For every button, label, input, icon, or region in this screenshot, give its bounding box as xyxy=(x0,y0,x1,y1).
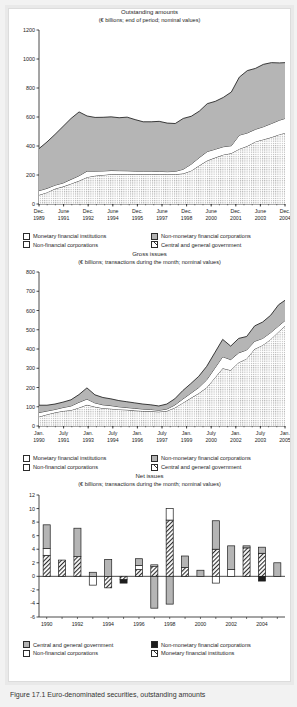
svg-text:Dec.: Dec. xyxy=(132,208,143,214)
svg-text:July: July xyxy=(59,430,69,436)
figure-caption: Figure 17.1 Euro-denominated securities,… xyxy=(10,690,287,704)
svg-text:200: 200 xyxy=(26,172,35,178)
legend-item-nfc: Non-financial corporations xyxy=(23,241,151,250)
legend-swatch-hatched-icon xyxy=(151,241,158,248)
legend-swatch-gray-icon xyxy=(151,233,158,240)
svg-text:June: June xyxy=(107,208,118,214)
svg-text:2000: 2000 xyxy=(205,215,217,221)
chart3-plot: -6-4-20246810121990199219941996199820002… xyxy=(9,489,290,639)
legend-swatch-white-icon xyxy=(23,650,30,657)
svg-text:-2: -2 xyxy=(30,586,35,592)
svg-text:1998: 1998 xyxy=(164,621,176,627)
legend-item-mfi: Monetary financial institutions xyxy=(23,232,151,241)
svg-text:600: 600 xyxy=(26,308,35,314)
svg-text:100: 100 xyxy=(26,404,35,410)
svg-text:1995: 1995 xyxy=(132,215,144,221)
svg-text:2003: 2003 xyxy=(255,215,267,221)
svg-text:0: 0 xyxy=(32,201,35,207)
svg-text:1000: 1000 xyxy=(23,56,35,62)
legend-label-cgg: Central and general government xyxy=(161,241,241,250)
chart1-plot: 020040060080010001200Dec.1989June1991Dec… xyxy=(9,24,290,230)
legend2-item-nmfc: Non-monetary financial corporations xyxy=(151,454,279,463)
svg-text:1991: 1991 xyxy=(58,437,70,443)
legend-swatch-gray-icon xyxy=(151,455,158,462)
svg-text:1994: 1994 xyxy=(107,215,119,221)
svg-text:1994: 1994 xyxy=(107,437,119,443)
svg-text:1996: 1996 xyxy=(133,621,145,627)
legend-swatch-dotted-icon xyxy=(23,455,30,462)
svg-text:July: July xyxy=(256,430,266,436)
svg-text:2000: 2000 xyxy=(205,437,217,443)
svg-text:Dec.: Dec. xyxy=(181,208,192,214)
svg-text:2003: 2003 xyxy=(255,437,267,443)
svg-text:Dec.: Dec. xyxy=(230,208,241,214)
chart1-subtitle: (€ billions; end of period; nominal valu… xyxy=(9,17,290,25)
legend3-item-cgg: Central and general government xyxy=(23,641,151,650)
legend-swatch-hatched-icon xyxy=(151,464,158,471)
svg-text:0: 0 xyxy=(32,573,35,579)
legend3-item-mfi: Monetary financial institutions xyxy=(151,649,279,658)
legend-swatch-hatched-icon xyxy=(151,650,158,657)
chart3-title-block: Net issues (€ billions; transactions dur… xyxy=(9,473,290,488)
chart1-legend: Monetary financial institutions Non-mone… xyxy=(9,230,290,249)
svg-text:1999: 1999 xyxy=(181,437,193,443)
svg-text:800: 800 xyxy=(26,269,35,275)
legend2-item-mfi: Monetary financial institutions xyxy=(23,454,151,463)
legend2-label-mfi: Monetary financial institutions xyxy=(33,454,106,463)
svg-text:2: 2 xyxy=(32,559,35,565)
legend-swatch-white-icon xyxy=(23,464,30,471)
legend3-label-cgg: Central and general government xyxy=(33,641,113,650)
svg-text:-4: -4 xyxy=(30,600,35,606)
svg-text:Jan.: Jan. xyxy=(182,430,192,436)
svg-text:1997: 1997 xyxy=(156,437,168,443)
figure-page: Outstanding amounts (€ billions; end of … xyxy=(0,0,297,707)
svg-text:2005: 2005 xyxy=(279,437,290,443)
svg-text:1997: 1997 xyxy=(156,215,168,221)
figure-frame: Outstanding amounts (€ billions; end of … xyxy=(8,8,291,682)
svg-text:2002: 2002 xyxy=(230,437,242,443)
svg-text:700: 700 xyxy=(26,289,35,295)
legend-swatch-white-icon xyxy=(23,241,30,248)
svg-text:12: 12 xyxy=(29,492,35,498)
svg-text:300: 300 xyxy=(26,366,35,372)
svg-text:Jan.: Jan. xyxy=(83,430,93,436)
svg-text:500: 500 xyxy=(26,327,35,333)
legend-label-nmfc: Non-monetary financial corporations xyxy=(161,232,251,241)
svg-text:600: 600 xyxy=(26,114,35,120)
svg-text:1996: 1996 xyxy=(132,437,144,443)
svg-text:July: July xyxy=(207,430,217,436)
svg-text:Dec.: Dec. xyxy=(280,208,290,214)
svg-text:0: 0 xyxy=(32,423,35,429)
svg-text:8: 8 xyxy=(32,519,35,525)
legend3-label-nfc: Non-financial corporations xyxy=(33,649,98,658)
svg-text:2004: 2004 xyxy=(256,621,268,627)
legend2-item-nfc: Non-financial corporations xyxy=(23,463,151,472)
svg-text:1992: 1992 xyxy=(82,215,94,221)
svg-text:July: July xyxy=(108,430,118,436)
chart2-title-block: Gross issues (€ billions; transactions d… xyxy=(9,251,290,266)
svg-text:June: June xyxy=(206,208,217,214)
chart3-legend: Central and general government Non-monet… xyxy=(9,639,290,658)
svg-text:-6: -6 xyxy=(30,614,35,620)
svg-text:Jan.: Jan. xyxy=(231,430,241,436)
chart-outstanding-amounts: Outstanding amounts (€ billions; end of … xyxy=(9,9,290,249)
svg-text:800: 800 xyxy=(26,85,35,91)
svg-text:1998: 1998 xyxy=(181,215,193,221)
legend2-label-nmfc: Non-monetary financial corporations xyxy=(161,454,251,463)
svg-text:1994: 1994 xyxy=(102,621,114,627)
svg-text:400: 400 xyxy=(26,346,35,352)
legend3-item-nfc: Non-financial corporations xyxy=(23,649,151,658)
chart2-plot: 0100200300400500600700800Jan.1990July199… xyxy=(9,266,290,452)
svg-text:2000: 2000 xyxy=(195,621,207,627)
svg-text:June: June xyxy=(58,208,69,214)
legend-swatch-gray-icon xyxy=(23,641,30,648)
legend3-label-nmfc: Non-monetary financial corporations xyxy=(161,641,251,650)
svg-text:400: 400 xyxy=(26,143,35,149)
legend-label-nfc: Non-financial corporations xyxy=(33,241,98,250)
legend-item-nmfc: Non-monetary financial corporations xyxy=(151,232,279,241)
legend2-label-cgg: Central and general government xyxy=(161,463,241,472)
svg-text:1992: 1992 xyxy=(72,621,84,627)
svg-text:1991: 1991 xyxy=(58,215,70,221)
svg-text:1989: 1989 xyxy=(33,215,45,221)
svg-text:2002: 2002 xyxy=(225,621,237,627)
